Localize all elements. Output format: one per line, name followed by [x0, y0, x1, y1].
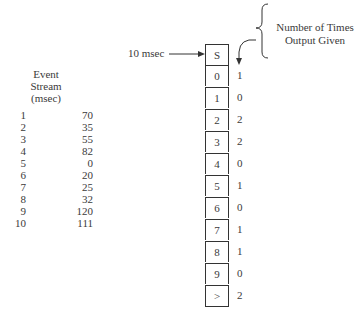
bin-count: 0 — [237, 263, 247, 283]
header-line: Output Given — [272, 34, 358, 47]
header-line: Number of Times — [272, 21, 358, 34]
bin-count: 1 — [237, 241, 247, 261]
bin-count: 2 — [237, 285, 247, 305]
bin-cell: 4 — [205, 153, 229, 174]
bin-cell: 5 — [205, 175, 229, 196]
bin-count: 0 — [237, 197, 247, 217]
bin-cell: 3 — [205, 131, 229, 152]
bin-count: 1 — [237, 175, 247, 195]
curved-arrow-icon — [236, 40, 256, 65]
output-count-header: Number of Times Output Given — [272, 21, 358, 47]
bin-cell: 0 — [205, 65, 229, 86]
bin-cell: S — [205, 44, 229, 65]
bin-count: 0 — [237, 87, 247, 107]
bin-cell: 2 — [205, 109, 229, 130]
bin-cell: > — [205, 285, 229, 307]
bin-cell: 9 — [205, 263, 229, 284]
bin-count: 0 — [237, 153, 247, 173]
bin-count: 1 — [237, 65, 247, 85]
bin-count: 1 — [237, 219, 247, 239]
bin-count: 2 — [237, 131, 247, 151]
bin-cell: 6 — [205, 197, 229, 218]
brace-icon — [256, 4, 268, 58]
input-arrow-icon — [169, 51, 205, 57]
bin-cell: 1 — [205, 87, 229, 108]
bin-cell: 8 — [205, 241, 229, 262]
diagram-arrows — [0, 0, 360, 323]
bin-count: 2 — [237, 109, 247, 129]
bin-cell: 7 — [205, 219, 229, 240]
